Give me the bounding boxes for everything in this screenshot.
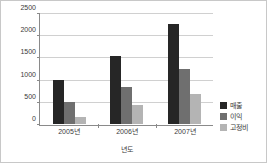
bar-chart: 05001000150020002500 2005년2006년2007년 년도 … [0,0,267,163]
legend: 매출이익고정비 [220,102,248,131]
y-axis-tick-label: 500 [24,92,36,99]
legend-item: 고정비 [220,124,248,131]
x-axis-tick-label: 2005년 [40,128,98,135]
y-axis-tick-mark [37,57,40,58]
bar-groups [41,14,213,124]
y-axis-tick-mark [37,13,40,14]
legend-swatch [220,113,227,120]
y-axis-tick-mark [37,102,40,103]
y-axis-tick-mark [37,124,40,125]
legend-label: 이익 [230,113,242,120]
x-axis-tick-label: 2006년 [98,128,156,135]
bar-group [41,14,98,124]
bar [190,94,201,124]
bar [110,56,121,124]
bar [64,102,75,124]
legend-label: 고정비 [230,124,248,131]
x-axis-tick-labels: 2005년2006년2007년 [40,128,214,135]
legend-label: 매출 [230,102,242,109]
bar [75,117,86,124]
legend-swatch [220,124,227,131]
y-axis-tick-label: 0 [32,115,36,122]
bar-group [98,14,155,124]
y-axis-tick-label: 2500 [20,4,36,11]
y-axis-tick-label: 2000 [20,26,36,33]
y-axis-tick-label: 1000 [20,70,36,77]
plot-area: 05001000150020002500 [39,14,213,126]
bar [132,105,143,124]
legend-item: 이익 [220,113,248,120]
y-axis-tick-mark [37,80,40,81]
legend-swatch [220,102,227,109]
bar [168,24,179,124]
bar [121,87,132,124]
bar-group [156,14,213,124]
x-axis-tick-label: 2007년 [156,128,214,135]
bar [179,69,190,124]
legend-item: 매출 [220,102,248,109]
y-axis-tick-label: 1500 [20,48,36,55]
x-axis-title: 년도 [40,146,214,153]
y-axis-tick-mark [37,35,40,36]
bar [53,80,64,124]
